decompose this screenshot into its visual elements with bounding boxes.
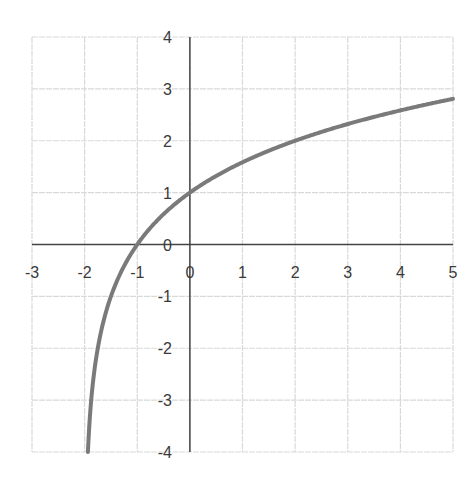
y-tick-label: -2 (158, 340, 172, 357)
x-axis-tick-labels: -3-2-1012345 (25, 264, 458, 281)
x-tick-label: 4 (396, 264, 405, 281)
x-tick-label: 1 (238, 264, 247, 281)
x-tick-label: -1 (130, 264, 144, 281)
x-tick-label: -2 (78, 264, 92, 281)
y-tick-label: 0 (163, 237, 172, 254)
y-tick-label: 1 (163, 185, 172, 202)
y-tick-label: 2 (163, 133, 172, 150)
y-tick-label: 3 (163, 81, 172, 98)
function-plot: -3-2-1012345 43210-1-2-3-4 (0, 0, 476, 483)
y-tick-label: -3 (158, 392, 172, 409)
y-tick-label: -4 (158, 444, 172, 461)
x-tick-label: -3 (25, 264, 39, 281)
x-tick-label: 2 (291, 264, 300, 281)
y-tick-label: -1 (158, 288, 172, 305)
y-tick-label: 4 (163, 29, 172, 46)
x-tick-label: 0 (185, 264, 194, 281)
x-tick-label: 5 (449, 264, 458, 281)
x-tick-label: 3 (343, 264, 352, 281)
